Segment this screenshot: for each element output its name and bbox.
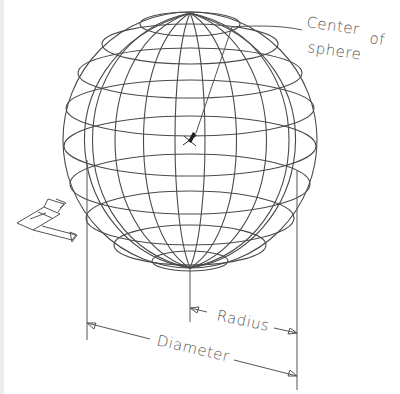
ucs-axis-icon <box>17 199 77 242</box>
center-label-2: of <box>368 29 386 49</box>
diameter-label: Diameter <box>155 331 232 365</box>
center-label-1: Center <box>305 13 361 38</box>
radius-label: Radius <box>215 306 271 335</box>
center-label-3: sphere <box>306 38 362 63</box>
sphere-diagram: Center of sphere Radius Diameter <box>0 0 400 394</box>
center-marker <box>183 132 197 146</box>
